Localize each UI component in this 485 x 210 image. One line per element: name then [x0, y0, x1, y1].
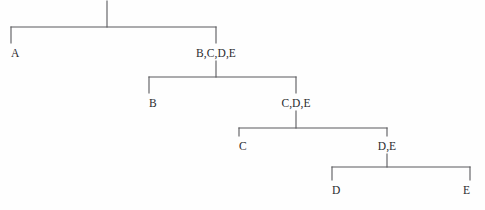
edge-group — [11, 1, 470, 180]
tree-node-label-a: A — [11, 47, 19, 59]
hierarchical-tree-diagram: AB,C,D,EBC,D,ECD,EDE — [0, 0, 485, 210]
tree-node-label-c: C — [239, 140, 247, 152]
tree-node-label-b: B — [149, 97, 157, 109]
tree-node-label-d: D — [332, 184, 340, 196]
tree-node-label-e: E — [463, 184, 470, 196]
tree-edges-canvas — [0, 0, 485, 210]
tree-node-label-cde: C,D,E — [281, 97, 310, 109]
tree-node-label-de: D,E — [378, 140, 397, 152]
tree-node-label-bcde: B,C,D,E — [196, 47, 236, 59]
